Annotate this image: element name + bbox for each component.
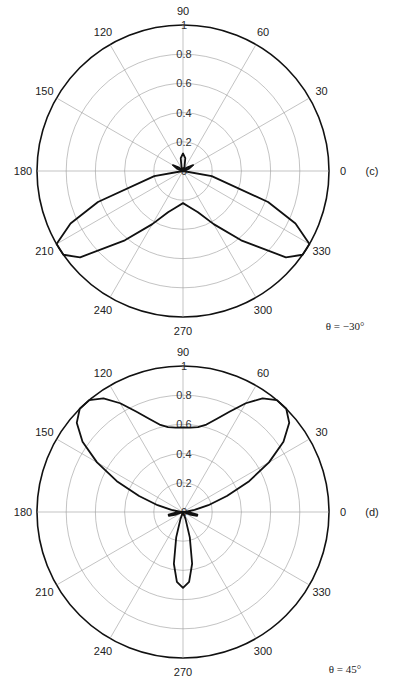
grid-spoke bbox=[183, 512, 309, 585]
grid-spoke bbox=[57, 512, 183, 585]
grid-spoke bbox=[57, 439, 183, 512]
grid-spoke bbox=[183, 98, 309, 171]
radial-tick-label: 0.4 bbox=[176, 448, 191, 460]
radial-tick-label: 0.8 bbox=[176, 389, 191, 401]
angle-tick-label: 240 bbox=[94, 645, 112, 657]
radial-tick-label: 1 bbox=[181, 360, 187, 372]
angle-tick-label: 30 bbox=[315, 85, 327, 97]
angle-tick-label: 60 bbox=[257, 367, 269, 379]
panel-label: (d) bbox=[365, 506, 378, 518]
grid-spoke bbox=[183, 439, 309, 512]
polar-plot-c: 030609012015018021024027030033000.20.40.… bbox=[0, 0, 409, 347]
angle-tick-label: 60 bbox=[257, 26, 269, 38]
angle-tick-label: 180 bbox=[14, 506, 32, 518]
theta-caption: θ = −30° bbox=[326, 320, 365, 332]
grid-spoke bbox=[110, 45, 183, 171]
polar-chart-d: 030609012015018021024027030033000.20.40.… bbox=[0, 347, 409, 694]
angle-tick-label: 120 bbox=[94, 26, 112, 38]
angle-tick-label: 210 bbox=[35, 586, 53, 598]
angle-tick-label: 210 bbox=[35, 245, 53, 257]
radial-tick-label: 0.8 bbox=[176, 48, 191, 60]
radial-tick-label: 0.2 bbox=[176, 477, 191, 489]
grid-spoke bbox=[183, 171, 256, 297]
angle-tick-label: 330 bbox=[312, 586, 330, 598]
angle-tick-label: 90 bbox=[177, 347, 189, 358]
angle-tick-label: 30 bbox=[315, 426, 327, 438]
grid-spoke bbox=[183, 512, 256, 638]
polar-chart-c: 030609012015018021024027030033000.20.40.… bbox=[0, 0, 409, 347]
radial-tick-label: 1 bbox=[181, 19, 187, 31]
grid-spoke bbox=[110, 512, 183, 638]
angle-tick-label: 180 bbox=[14, 165, 32, 177]
angle-tick-label: 120 bbox=[94, 367, 112, 379]
polar-plot-d: 030609012015018021024027030033000.20.40.… bbox=[0, 347, 409, 694]
grid-spoke bbox=[57, 171, 183, 244]
radial-tick-label: 0.6 bbox=[176, 77, 191, 89]
angle-tick-label: 90 bbox=[177, 5, 189, 17]
angle-tick-label: 150 bbox=[35, 85, 53, 97]
angle-tick-label: 0 bbox=[340, 165, 346, 177]
panel-label: (c) bbox=[366, 165, 379, 177]
angle-tick-label: 300 bbox=[254, 645, 272, 657]
theta-caption: θ = 45° bbox=[329, 663, 361, 675]
radial-tick-label: 0.4 bbox=[176, 107, 191, 119]
radial-tick-label: 0.2 bbox=[176, 136, 191, 148]
angle-tick-label: 240 bbox=[94, 304, 112, 316]
angle-tick-label: 270 bbox=[174, 666, 192, 678]
grid-spoke bbox=[183, 45, 256, 171]
angle-tick-label: 0 bbox=[340, 506, 346, 518]
grid-spoke bbox=[183, 171, 309, 244]
angle-tick-label: 330 bbox=[312, 245, 330, 257]
angle-tick-label: 150 bbox=[35, 426, 53, 438]
grid-spoke bbox=[110, 171, 183, 297]
angle-tick-label: 270 bbox=[174, 325, 192, 337]
grid-spoke bbox=[57, 98, 183, 171]
angle-tick-label: 300 bbox=[254, 304, 272, 316]
radial-tick-label: 0.6 bbox=[176, 418, 191, 430]
